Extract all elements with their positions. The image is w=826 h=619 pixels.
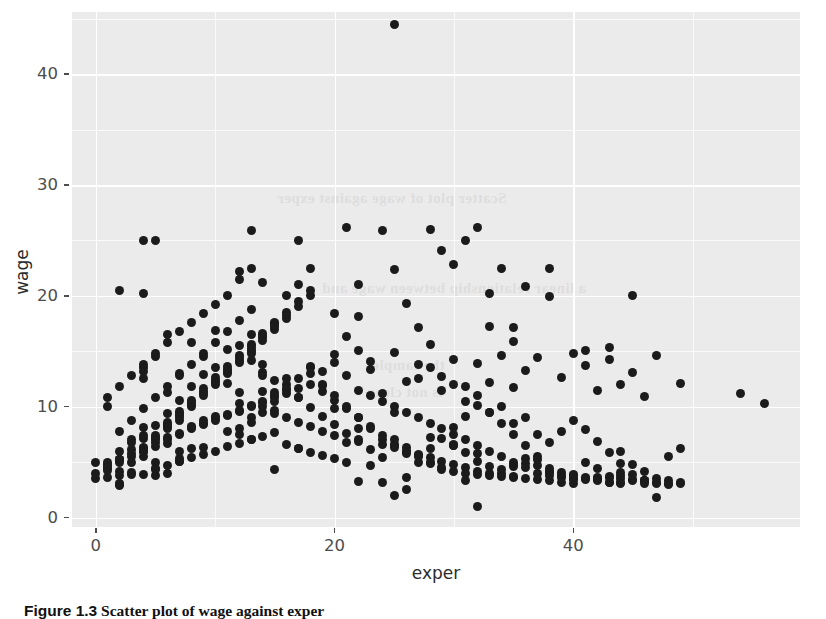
data-point bbox=[437, 372, 446, 381]
y-tick-mark-30 bbox=[64, 184, 69, 185]
data-point bbox=[282, 386, 291, 395]
data-point bbox=[235, 388, 244, 397]
data-point bbox=[426, 458, 435, 467]
data-point bbox=[569, 479, 578, 488]
y-axis-title: wage bbox=[12, 232, 32, 312]
y-tick-label-30: 30 bbox=[18, 175, 58, 194]
data-point bbox=[223, 327, 232, 336]
data-point bbox=[223, 427, 232, 436]
data-point bbox=[426, 225, 435, 234]
data-point bbox=[294, 236, 303, 245]
data-point bbox=[449, 430, 458, 439]
data-point bbox=[378, 226, 387, 235]
data-point bbox=[163, 461, 172, 470]
data-point bbox=[581, 474, 590, 483]
data-point bbox=[139, 470, 148, 479]
data-point bbox=[581, 361, 590, 370]
data-point bbox=[581, 346, 590, 355]
data-point bbox=[151, 393, 160, 402]
data-point bbox=[461, 476, 470, 485]
data-point bbox=[366, 461, 375, 470]
data-point bbox=[378, 453, 387, 462]
data-point bbox=[426, 433, 435, 442]
data-point bbox=[223, 410, 232, 419]
data-point bbox=[235, 351, 244, 360]
data-point bbox=[294, 384, 303, 393]
data-point bbox=[509, 383, 518, 392]
data-point bbox=[151, 431, 160, 440]
data-point bbox=[366, 365, 375, 374]
data-point bbox=[163, 409, 172, 418]
data-point bbox=[330, 309, 339, 318]
showthrough-line-0: Scatter plot of wage against exper bbox=[277, 190, 507, 207]
data-point bbox=[258, 387, 267, 396]
data-point bbox=[461, 435, 470, 444]
data-point bbox=[437, 246, 446, 255]
data-point bbox=[390, 265, 399, 274]
data-point bbox=[175, 429, 184, 438]
data-point bbox=[461, 469, 470, 478]
data-point bbox=[545, 292, 554, 301]
data-point bbox=[760, 399, 769, 408]
data-point bbox=[115, 382, 124, 391]
data-point bbox=[247, 305, 256, 314]
caption-text: Scatter plot of wage against exper bbox=[101, 602, 324, 619]
data-point bbox=[342, 438, 351, 447]
data-point bbox=[366, 424, 375, 433]
data-point bbox=[258, 432, 267, 441]
data-point bbox=[199, 309, 208, 318]
data-point bbox=[235, 406, 244, 415]
data-point bbox=[139, 367, 148, 376]
gridline-y bbox=[72, 351, 800, 352]
gridline-x bbox=[693, 12, 694, 527]
data-point bbox=[473, 391, 482, 400]
data-point bbox=[223, 379, 232, 388]
data-point bbox=[414, 323, 423, 332]
data-point bbox=[437, 386, 446, 395]
data-point bbox=[461, 448, 470, 457]
gridline-y bbox=[72, 185, 800, 187]
data-point bbox=[354, 413, 363, 422]
data-point bbox=[616, 380, 625, 389]
data-point bbox=[342, 223, 351, 232]
data-point bbox=[509, 337, 518, 346]
data-point bbox=[115, 286, 124, 295]
data-point bbox=[318, 412, 327, 421]
data-point bbox=[187, 318, 196, 327]
data-point bbox=[282, 291, 291, 300]
gridline-x bbox=[96, 12, 98, 527]
x-tick-label-0: 0 bbox=[66, 536, 126, 555]
data-point bbox=[402, 299, 411, 308]
data-point bbox=[390, 348, 399, 357]
data-point bbox=[497, 452, 506, 461]
data-point bbox=[151, 349, 160, 358]
data-point bbox=[616, 447, 625, 456]
data-point bbox=[473, 457, 482, 466]
data-point bbox=[509, 419, 518, 428]
data-point bbox=[652, 479, 661, 488]
data-point bbox=[605, 448, 614, 457]
caption-number: Figure 1.3 bbox=[24, 602, 97, 619]
data-point bbox=[103, 402, 112, 411]
data-point bbox=[282, 413, 291, 422]
data-point bbox=[449, 467, 458, 476]
data-point bbox=[402, 473, 411, 482]
data-point bbox=[557, 373, 566, 382]
data-point bbox=[485, 471, 494, 480]
data-point bbox=[151, 421, 160, 430]
data-point bbox=[605, 343, 614, 352]
data-point bbox=[437, 434, 446, 443]
data-point bbox=[211, 300, 220, 309]
gridline-y bbox=[72, 130, 800, 131]
data-point bbox=[569, 416, 578, 425]
y-tick-mark-10 bbox=[64, 406, 69, 407]
data-point bbox=[258, 278, 267, 287]
data-point bbox=[593, 473, 602, 482]
data-point bbox=[175, 327, 184, 336]
data-point bbox=[593, 386, 602, 395]
data-point bbox=[103, 473, 112, 482]
data-point bbox=[437, 424, 446, 433]
data-point bbox=[127, 458, 136, 467]
data-point bbox=[223, 442, 232, 451]
data-point bbox=[485, 322, 494, 331]
